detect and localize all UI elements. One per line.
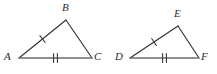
- triangle-abc: [19, 20, 92, 62]
- vertex-label-b: B: [62, 2, 69, 13]
- vertex-label-d: D: [115, 51, 123, 62]
- vertex-label-a: A: [4, 51, 11, 62]
- triangles-diagram: [0, 0, 217, 74]
- vertex-label-e: E: [174, 8, 181, 19]
- tick-mark-side-ab: [40, 36, 45, 43]
- vertex-label-c: C: [94, 51, 101, 62]
- side-ef: [178, 26, 199, 58]
- vertex-label-f: F: [201, 51, 208, 62]
- geometry-figure-canvas: A B C D E F: [0, 0, 217, 74]
- tick-mark-side-de: [152, 39, 157, 46]
- triangle-def: [130, 26, 199, 62]
- side-bc: [66, 20, 92, 58]
